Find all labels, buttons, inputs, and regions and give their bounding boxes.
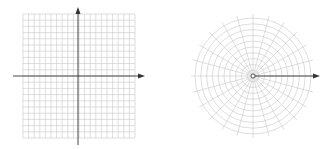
polar-axis-arrow-icon: [313, 74, 320, 79]
diagram-canvas: [0, 0, 331, 149]
polar-axis: [251, 74, 320, 79]
pole-marker: [251, 74, 255, 78]
y-axis-arrow-icon: [76, 7, 81, 14]
x-axis-arrow-icon: [138, 74, 145, 79]
